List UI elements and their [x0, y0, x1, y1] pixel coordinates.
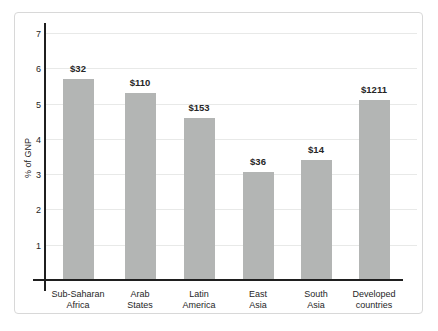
y-tick-label: 1 [23, 241, 41, 251]
y-tick-label: 3 [23, 170, 41, 180]
y-tick-label: 7 [23, 29, 41, 39]
y-axis-line [44, 23, 46, 291]
chart-panel: % of GNP 1234567$32Sub-SaharanAfrica$110… [14, 12, 423, 314]
bar-value-label: $14 [286, 144, 346, 156]
category-label-line: Developed [336, 289, 412, 300]
bar-chart-figure: % of GNP 1234567$32Sub-SaharanAfrica$110… [0, 0, 438, 331]
bar-value-label: $36 [228, 156, 288, 168]
bar-value-label: $153 [169, 102, 229, 114]
category-label-line: countries [336, 300, 412, 311]
bar-value-label: $32 [48, 63, 108, 75]
bar [243, 172, 274, 279]
gridline [45, 33, 417, 34]
y-axis-title: % of GNP [22, 108, 34, 208]
y-tick-label: 2 [23, 205, 41, 215]
bar-value-label: $1211 [344, 84, 404, 96]
x-axis-line [33, 279, 403, 281]
bar [301, 160, 332, 279]
bar [359, 100, 390, 279]
bar [63, 79, 94, 279]
bar [125, 93, 156, 279]
category-label: Developedcountries [336, 289, 412, 311]
y-tick-label: 6 [23, 64, 41, 74]
bar [184, 118, 215, 279]
bar-value-label: $110 [110, 77, 170, 89]
y-tick-label: 4 [23, 135, 41, 145]
y-tick-label: 5 [23, 100, 41, 110]
